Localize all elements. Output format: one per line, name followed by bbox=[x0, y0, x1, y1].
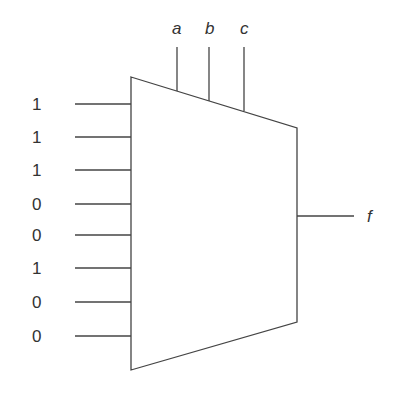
output-label-f: f bbox=[367, 208, 372, 225]
select-label-b: b bbox=[205, 20, 214, 37]
select-label-a: a bbox=[172, 20, 181, 37]
input-value-5: 1 bbox=[32, 260, 41, 277]
input-value-1: 1 bbox=[32, 129, 41, 146]
mux-diagram: a b c 1 1 1 0 0 1 0 0 f bbox=[0, 0, 395, 395]
input-value-7: 0 bbox=[32, 328, 41, 345]
mux-graphic bbox=[0, 0, 395, 395]
input-value-2: 1 bbox=[32, 162, 41, 179]
input-value-6: 0 bbox=[32, 294, 41, 311]
input-value-3: 0 bbox=[32, 196, 41, 213]
mux-body bbox=[131, 77, 297, 370]
input-value-0: 1 bbox=[32, 96, 41, 113]
select-label-c: c bbox=[240, 20, 249, 37]
input-value-4: 0 bbox=[32, 227, 41, 244]
